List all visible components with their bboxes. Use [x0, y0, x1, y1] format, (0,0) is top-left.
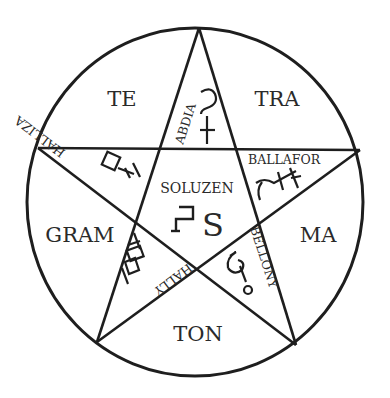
point-label-ballafor: BALLAFOR	[248, 152, 321, 167]
box-and-cross-sigil-icon	[102, 152, 140, 178]
center-s-glyph: S	[202, 206, 224, 244]
segment-label-gram: GRAM	[45, 223, 114, 247]
segment-label-te: TE	[107, 87, 136, 111]
pentagram-diagram: TE TRA GRAM MA TON ABDIA BALLAFOR HALLIZ…	[0, 0, 390, 398]
segment-label-tra: TRA	[255, 87, 301, 111]
point-label-hally: HALLY	[150, 261, 195, 300]
mercury-like-sigil-icon	[200, 89, 216, 144]
ballafor-sigil-icon	[256, 168, 301, 200]
point-label-halliza: HALLIZA	[11, 112, 68, 160]
star-line-horizontal	[38, 148, 360, 150]
point-label-bellony: BELLONY	[247, 224, 281, 291]
center-label-soluzen: SOLUZEN	[160, 180, 234, 196]
hook-and-circle-sigil-icon	[228, 252, 252, 294]
bracket-and-s-sigil-icon	[171, 207, 193, 231]
point-label-abdia: ABDIA	[171, 100, 199, 147]
segment-label-ma: MA	[300, 223, 338, 247]
segment-label-ton: TON	[173, 322, 223, 346]
